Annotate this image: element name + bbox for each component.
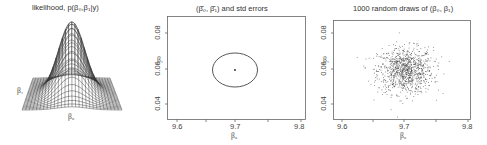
y-tick-0.08: 0.08: [319, 25, 328, 40]
random-draws-panel: 1000 random draws of (β₀, β₁) 9.6 9.7 9.…: [316, 0, 487, 145]
x-tick-9.7: 9.7: [230, 122, 240, 131]
beta0-axis-label: β₀: [68, 112, 74, 121]
likelihood-wireframe: [0, 0, 150, 145]
beta1-axis-label: β₁: [17, 86, 23, 95]
likelihood-surface-panel: likelihood, p(β₀,β₁|y) β₁ β₀: [0, 0, 150, 145]
y-axis-label: β₁: [157, 55, 163, 64]
x-axis-label: β₀: [400, 131, 406, 140]
y-axis-label: β₁: [323, 55, 329, 64]
x-axis-label: β₀: [231, 131, 237, 140]
x-tick-9.8: 9.8: [462, 122, 472, 131]
y-tick-0.04: 0.04: [319, 96, 328, 111]
y-tick-0.04: 0.04: [153, 96, 162, 111]
x-tick-9.7: 9.7: [399, 122, 409, 131]
y-tick-0.08: 0.08: [153, 25, 162, 40]
estimate-panel: (β̂₀, β̂₁) and std errors 9.6 9.7 9.8 0.…: [150, 0, 315, 145]
x-tick-9.6: 9.6: [172, 122, 182, 131]
x-tick-9.8: 9.8: [294, 122, 304, 131]
x-tick-9.6: 9.6: [337, 122, 347, 131]
